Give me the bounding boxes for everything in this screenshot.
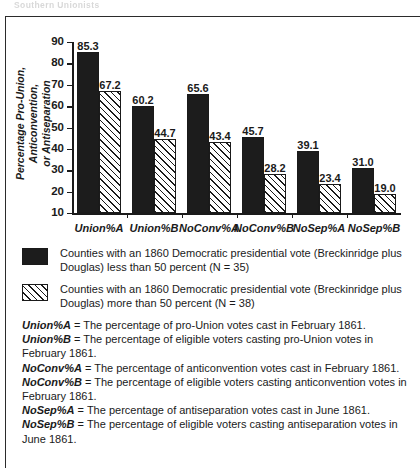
y-tick: 60 xyxy=(67,106,72,107)
bar-value-label: 39.1 xyxy=(297,139,318,151)
definition-line: Union%A = The percentage of pro-Union vo… xyxy=(22,318,414,332)
bar-union-b-solid: 60.2 xyxy=(132,106,154,213)
legend-item: Counties with an 1860 Democratic preside… xyxy=(22,283,412,310)
definition-line: NoConv%B = The percentage of eligible vo… xyxy=(22,375,414,403)
legend-label: Counties with an 1860 Democratic preside… xyxy=(60,247,408,274)
y-tick: 50 xyxy=(67,128,72,129)
legend-swatch-hatched xyxy=(22,284,48,301)
x-tick xyxy=(127,213,128,218)
legend-label: Counties with an 1860 Democratic preside… xyxy=(60,283,408,310)
legend-swatch-solid xyxy=(22,248,48,265)
plot-area: 102030405060708090 85.367.260.244.765.64… xyxy=(72,36,402,213)
bar-value-label: 45.7 xyxy=(242,125,263,137)
y-tick-label: 80 xyxy=(51,56,64,68)
y-tick-label: 50 xyxy=(51,121,64,133)
y-tick-label: 90 xyxy=(51,35,64,47)
bar-value-label: 43.4 xyxy=(209,130,230,142)
x-tick xyxy=(292,213,293,218)
y-tick-label: 20 xyxy=(51,185,64,197)
y-axis-title-line2: or Antiseparation xyxy=(40,80,52,167)
y-tick: 90 xyxy=(67,42,72,43)
bar-value-label: 28.2 xyxy=(264,162,285,174)
x-axis-label-nosep-a: NoSep%A xyxy=(293,222,346,234)
definition-text: = The percentage of anticonvention votes… xyxy=(82,362,399,374)
definition-term: Union%A xyxy=(22,319,71,331)
x-axis-label-union-a: Union%A xyxy=(75,222,124,234)
y-tick-label: 10 xyxy=(51,206,64,218)
chart-legend: Counties with an 1860 Democratic preside… xyxy=(22,247,412,319)
definition-term: NoSep%A xyxy=(22,404,75,416)
y-axis-line xyxy=(72,42,74,213)
definitions-list: Union%A = The percentage of pro-Union vo… xyxy=(22,318,414,446)
bar-value-label: 23.4 xyxy=(319,172,340,184)
x-tick xyxy=(182,213,183,218)
definition-term: NoSep%B xyxy=(22,418,75,430)
y-tick: 40 xyxy=(67,149,72,150)
y-tick: 30 xyxy=(67,170,72,171)
bar-union-a-solid: 85.3 xyxy=(77,52,99,213)
definition-line: NoSep%B = The percentage of eligible vot… xyxy=(22,417,414,445)
y-tick: 10 xyxy=(67,213,72,214)
definition-term: NoConv%B xyxy=(22,376,82,388)
x-tick xyxy=(347,213,348,218)
bar-union-a-hatched: 67.2 xyxy=(99,91,121,213)
bar-value-label: 67.2 xyxy=(99,79,120,91)
definition-line: Union%B = The percentage of eligible vot… xyxy=(22,332,414,360)
bar-noconv-b-solid: 45.7 xyxy=(242,137,264,213)
bar-value-label: 65.6 xyxy=(187,82,208,94)
x-tick xyxy=(237,213,238,218)
legend-item: Counties with an 1860 Democratic preside… xyxy=(22,247,412,274)
bar-nosep-a-hatched: 23.4 xyxy=(319,184,341,213)
y-tick: 70 xyxy=(67,85,72,86)
bar-value-label: 31.0 xyxy=(352,156,373,168)
y-tick: 80 xyxy=(67,63,72,64)
definition-text: = The percentage of eligible voters cast… xyxy=(22,333,373,359)
y-tick-label: 30 xyxy=(51,163,64,175)
x-axis-label-union-b: Union%B xyxy=(130,222,179,234)
definition-term: NoConv%A xyxy=(22,362,82,374)
y-tick: 20 xyxy=(67,192,72,193)
definition-line: NoConv%A = The percentage of anticonvent… xyxy=(22,361,414,375)
x-axis-label-nosep-b: NoSep%B xyxy=(348,222,401,234)
y-axis-title: Percentage Pro-Union, Anticonvention, or… xyxy=(14,29,53,219)
bar-noconv-a-solid: 65.6 xyxy=(187,94,209,213)
definition-text: = The percentage of pro-Union votes cast… xyxy=(71,319,366,331)
bar-noconv-a-hatched: 43.4 xyxy=(209,142,231,213)
x-axis-label-noconv-a: NoConv%A xyxy=(179,222,239,234)
bar-value-label: 44.7 xyxy=(154,127,175,139)
definition-text: = The percentage of antiseparation votes… xyxy=(75,404,370,416)
bar-chart: Percentage Pro-Union, Anticonvention, or… xyxy=(0,0,420,232)
y-axis-title-line1: Percentage Pro-Union, Anticonvention, xyxy=(14,67,39,180)
bar-nosep-a-solid: 39.1 xyxy=(297,151,319,213)
bar-value-label: 19.0 xyxy=(374,182,395,194)
x-axis-label-noconv-b: NoConv%B xyxy=(234,222,294,234)
bar-nosep-b-hatched: 19.0 xyxy=(374,194,396,213)
bar-nosep-b-solid: 31.0 xyxy=(352,168,374,213)
y-tick-label: 70 xyxy=(51,78,64,90)
bar-noconv-b-hatched: 28.2 xyxy=(264,174,286,213)
definition-text: = The percentage of eligible voters cast… xyxy=(22,418,398,444)
y-tick-label: 40 xyxy=(51,142,64,154)
bar-value-label: 85.3 xyxy=(77,40,98,52)
bar-value-label: 60.2 xyxy=(132,94,153,106)
definition-term: Union%B xyxy=(22,333,71,345)
definition-line: NoSep%A = The percentage of antiseparati… xyxy=(22,403,414,417)
bar-union-b-hatched: 44.7 xyxy=(154,139,176,213)
y-tick-label: 60 xyxy=(51,99,64,111)
